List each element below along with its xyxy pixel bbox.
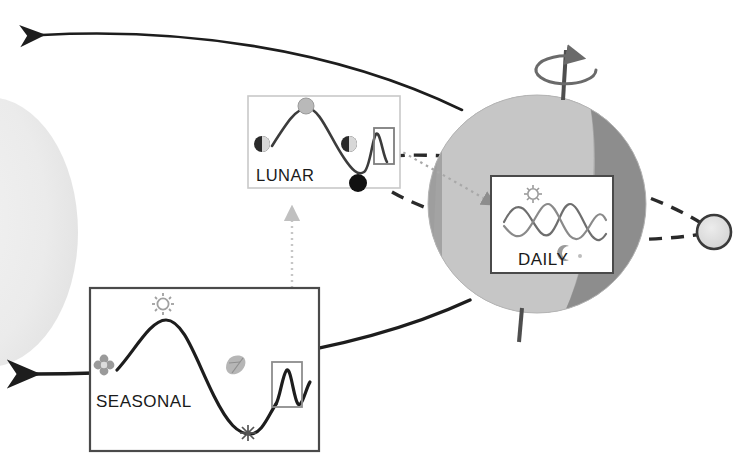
diagram-canvas: LUNAR DAILY SEASONAL: [0, 0, 753, 474]
moon-body: [697, 215, 731, 249]
last-quarter-moon-icon: [341, 136, 357, 152]
panel-label-lunar: LUNAR: [256, 166, 314, 185]
first-quarter-moon-icon: [254, 136, 270, 152]
sun-body: [0, 97, 78, 367]
panel-seasonal[interactable]: [90, 288, 319, 451]
new-moon-icon: [349, 174, 367, 192]
full-moon-icon: [298, 98, 314, 114]
panel-label-daily: DAILY: [518, 250, 568, 270]
snowflake-icon: [240, 425, 256, 441]
panel-label-seasonal: SEASONAL: [96, 392, 192, 412]
